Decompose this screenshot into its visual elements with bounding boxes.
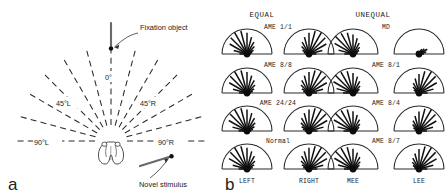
rose-plot (284, 106, 334, 134)
novel-stimulus-icon (140, 154, 174, 166)
condition-label-left: AME 24/24 (260, 100, 296, 107)
rose-hub (350, 51, 357, 58)
fan-ray (86, 47, 107, 125)
fan-ray (126, 116, 204, 137)
rose-hub (416, 128, 423, 135)
rose-plot (328, 68, 378, 96)
condition-label-left: AME 1/1 (264, 24, 292, 31)
rose-plot (328, 106, 378, 134)
rose-plot (394, 29, 444, 57)
novel-stimulus-label: Novel stimulus (139, 180, 187, 189)
rose-plot (394, 106, 444, 134)
panel-a: Fixation object Novel stimulus 0° 45°L 4… (0, 0, 223, 196)
axis-label-right: RIGHT (299, 178, 319, 185)
condition-label-right: AME 8/1 (372, 62, 400, 69)
angle-label-0: 0° (105, 73, 112, 82)
rose-hub (244, 90, 251, 97)
rose-plot (328, 144, 378, 172)
column-header-unequal: UNEQUAL (355, 11, 390, 19)
rose-plot (222, 144, 272, 172)
rose-plot (284, 144, 334, 172)
toad-head-icon (98, 142, 123, 164)
rose-hub (306, 166, 313, 173)
rose-plot (222, 29, 272, 57)
rose-hub (416, 166, 423, 173)
rose-plot (284, 29, 334, 57)
rose-hub (416, 90, 423, 97)
rose-plot (394, 68, 444, 96)
rose-plot (284, 68, 334, 96)
panel-a-letter: a (8, 175, 18, 194)
axis-label-mee: MEE (347, 178, 359, 185)
axis-label-left: LEFT (239, 178, 255, 185)
rose-plot (222, 106, 272, 134)
rose-plot (222, 68, 272, 96)
angle-label-45L: 45°L (56, 99, 71, 108)
rose-plot-grid: AME 1/1MDAME 8/8AME 8/1AME 24/24AME 8/4N… (222, 24, 444, 172)
condition-label-right: AME 8/4 (372, 100, 400, 107)
fixation-object-icon (109, 23, 113, 51)
rose-outer-arc (394, 29, 444, 54)
condition-label-left: AME 8/8 (264, 62, 292, 69)
column-header-equal: EQUAL (249, 11, 274, 19)
rose-hub (350, 128, 357, 135)
rose-hub (306, 90, 313, 97)
fan-ray (17, 116, 95, 137)
angle-label-90L: 90°L (34, 138, 49, 147)
rose-hub (244, 128, 251, 135)
visual-field-fan (14, 44, 208, 141)
condition-label-left: Normal (266, 138, 290, 145)
fixation-leader-line (115, 33, 139, 47)
novel-stimulus-arrowhead (164, 158, 168, 163)
panel-b: EQUAL UNEQUAL AME 1/1MDAME 8/8AME 8/1AME… (223, 0, 446, 196)
panel-b-letter: b (225, 175, 234, 194)
rose-hub (306, 51, 313, 58)
figure-root: Fixation object Novel stimulus 0° 45°L 4… (0, 0, 446, 196)
angle-label-90R: 90°R (158, 138, 174, 147)
axis-label-lee: LEE (413, 178, 425, 185)
rose-plot (328, 29, 378, 57)
rose-hub (350, 90, 357, 97)
condition-label-right: MD (382, 24, 390, 31)
fan-ray (115, 47, 136, 125)
panel-a-canvas: Fixation object Novel stimulus 0° 45°L 4… (0, 0, 223, 196)
condition-label-right: AME 8/7 (372, 138, 400, 145)
panel-b-canvas: EQUAL UNEQUAL AME 1/1MDAME 8/8AME 8/1AME… (223, 0, 446, 196)
rose-hub (416, 51, 423, 58)
fixation-object-label: Fixation object (140, 23, 188, 32)
rose-plot (394, 144, 444, 172)
rose-hub (306, 128, 313, 135)
rose-hub (244, 51, 251, 58)
rose-hub (244, 166, 251, 173)
rose-hub (350, 166, 357, 173)
angle-label-45R: 45°R (140, 99, 156, 108)
